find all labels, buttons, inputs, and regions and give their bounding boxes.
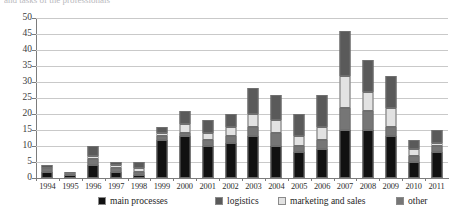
bar-group[interactable]: 2001 <box>196 18 219 178</box>
x-axis-tick <box>425 178 426 181</box>
bar-segment[interactable] <box>42 172 53 178</box>
stacked-bar[interactable] <box>88 146 99 178</box>
bar-segment[interactable] <box>385 127 396 137</box>
bar-segment[interactable] <box>294 152 305 178</box>
y-axis-tick-label: 35 <box>6 61 32 71</box>
stacked-bar[interactable] <box>156 127 167 178</box>
bar-segment[interactable] <box>317 140 328 150</box>
legend-item[interactable]: logistics <box>215 196 259 206</box>
stacked-bar[interactable] <box>225 114 236 178</box>
bar-group[interactable]: 1995 <box>59 18 82 178</box>
legend-item[interactable]: main processes <box>98 196 168 206</box>
bar-segment[interactable] <box>339 130 350 178</box>
x-axis-tick <box>105 178 106 181</box>
bar-segment[interactable] <box>362 92 373 111</box>
x-axis-tick <box>402 178 403 181</box>
legend-item[interactable]: other <box>396 196 428 206</box>
stacked-bar[interactable] <box>271 95 282 178</box>
bar-segment[interactable] <box>88 146 99 156</box>
bar-segment[interactable] <box>156 140 167 178</box>
bar-group[interactable]: 2003 <box>242 18 265 178</box>
bar-segment[interactable] <box>248 88 259 114</box>
bar-segment[interactable] <box>385 76 396 108</box>
bar-segment[interactable] <box>339 108 350 130</box>
x-axis-tick-label: 2011 <box>422 182 452 192</box>
stacked-bar[interactable] <box>317 95 328 178</box>
bar-segment[interactable] <box>271 133 282 146</box>
stacked-bar[interactable] <box>65 172 76 178</box>
bar-group[interactable]: 2000 <box>173 18 196 178</box>
stacked-bar[interactable] <box>179 111 190 178</box>
bar-segment[interactable] <box>225 127 236 137</box>
bar-group[interactable]: 1994 <box>36 18 59 178</box>
bar-segment[interactable] <box>317 127 328 140</box>
bar-segment[interactable] <box>431 130 442 143</box>
bar-segment[interactable] <box>271 146 282 178</box>
stacked-bar[interactable] <box>202 120 213 178</box>
bar-segment[interactable] <box>179 136 190 178</box>
bar-segment[interactable] <box>362 130 373 178</box>
stacked-bar[interactable] <box>294 114 305 178</box>
bar-segment[interactable] <box>339 76 350 108</box>
bar-group[interactable]: 2010 <box>402 18 425 178</box>
bar-segment[interactable] <box>294 114 305 136</box>
bar-segment[interactable] <box>111 172 122 178</box>
bar-group[interactable]: 1999 <box>150 18 173 178</box>
stacked-bar[interactable] <box>133 162 144 178</box>
y-axis-tick-label: 40 <box>6 45 32 55</box>
stacked-bar[interactable] <box>42 165 53 178</box>
stacked-bar[interactable] <box>408 140 419 178</box>
bar-segment[interactable] <box>385 136 396 178</box>
bar-group[interactable]: 1996 <box>82 18 105 178</box>
bar-group[interactable]: 2009 <box>379 18 402 178</box>
x-axis-tick <box>356 178 357 181</box>
bar-segment[interactable] <box>248 114 259 127</box>
y-axis-tick-label: 25 <box>6 93 32 103</box>
bar-segment[interactable] <box>339 31 350 76</box>
bar-group[interactable]: 1998 <box>128 18 151 178</box>
legend-label: marketing and sales <box>290 196 365 206</box>
stacked-bar[interactable] <box>248 88 259 178</box>
bar-segment[interactable] <box>271 95 282 121</box>
bar-segment[interactable] <box>202 146 213 178</box>
bar-group[interactable]: 2011 <box>425 18 448 178</box>
bar-segment[interactable] <box>248 127 259 137</box>
bar-segment[interactable] <box>362 60 373 92</box>
bar-segment[interactable] <box>408 162 419 178</box>
bar-group[interactable]: 1997 <box>105 18 128 178</box>
x-axis-tick <box>150 178 151 181</box>
bar-group[interactable]: 2004 <box>265 18 288 178</box>
bar-segment[interactable] <box>317 149 328 178</box>
stacked-bar[interactable] <box>431 130 442 178</box>
bar-segment[interactable] <box>362 111 373 130</box>
cropped-caption-sliver: and tasks of the professionals <box>4 0 184 6</box>
bar-group[interactable]: 2006 <box>311 18 334 178</box>
bar-segment[interactable] <box>317 95 328 127</box>
bar-segment[interactable] <box>133 175 144 178</box>
stacked-bar[interactable] <box>111 162 122 178</box>
bar-segment[interactable] <box>88 165 99 178</box>
bar-segment[interactable] <box>225 114 236 127</box>
bar-group[interactable]: 2008 <box>356 18 379 178</box>
bar-segment[interactable] <box>294 136 305 146</box>
bar-segment[interactable] <box>271 120 282 133</box>
stacked-bar[interactable] <box>339 31 350 178</box>
bar-group[interactable]: 2007 <box>334 18 357 178</box>
legend-swatch <box>278 197 286 205</box>
bar-segment[interactable] <box>179 111 190 124</box>
stacked-bar[interactable] <box>385 76 396 178</box>
bar-segment[interactable] <box>225 143 236 178</box>
cropped-caption-text: and tasks of the professionals <box>4 0 184 5</box>
bar-segment[interactable] <box>408 140 419 150</box>
bar-segment[interactable] <box>431 152 442 178</box>
x-axis-tick <box>311 178 312 181</box>
legend-item[interactable]: marketing and sales <box>278 196 365 206</box>
bar-segment[interactable] <box>179 124 190 134</box>
bar-group[interactable]: 2005 <box>288 18 311 178</box>
stacked-bar[interactable] <box>362 60 373 178</box>
bar-segment[interactable] <box>202 120 213 133</box>
bar-segment[interactable] <box>65 175 76 178</box>
bar-group[interactable]: 2002 <box>219 18 242 178</box>
bar-segment[interactable] <box>385 108 396 127</box>
bar-segment[interactable] <box>248 136 259 178</box>
